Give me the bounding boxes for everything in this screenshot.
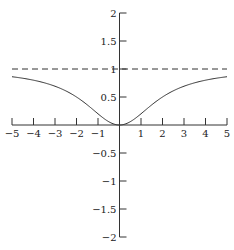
x-tick-label: −4 <box>26 128 41 139</box>
x-tick-label: 5 <box>224 128 230 139</box>
x-tick-label: 4 <box>202 128 208 139</box>
x-tick-label: 2 <box>159 128 165 139</box>
x-tick-label: −5 <box>5 128 20 139</box>
y-tick-label: −1 <box>102 176 117 187</box>
x-tick-label: −3 <box>48 128 63 139</box>
y-tick-label: 1.5 <box>101 36 117 47</box>
function-plot: −5−4−3−2−11234521.510.5−0.5−1−1.5−2 <box>0 0 234 250</box>
x-tick-label: −2 <box>69 128 84 139</box>
y-tick-label: −1.5 <box>92 204 116 215</box>
x-tick-label: 3 <box>181 128 187 139</box>
y-tick-label: −0.5 <box>92 148 116 159</box>
y-tick-label: −2 <box>102 232 117 243</box>
y-tick-label: 0.5 <box>101 92 117 103</box>
x-tick-label: 1 <box>138 128 144 139</box>
y-tick-label: 2 <box>110 8 116 19</box>
x-tick-label: −1 <box>91 128 106 139</box>
